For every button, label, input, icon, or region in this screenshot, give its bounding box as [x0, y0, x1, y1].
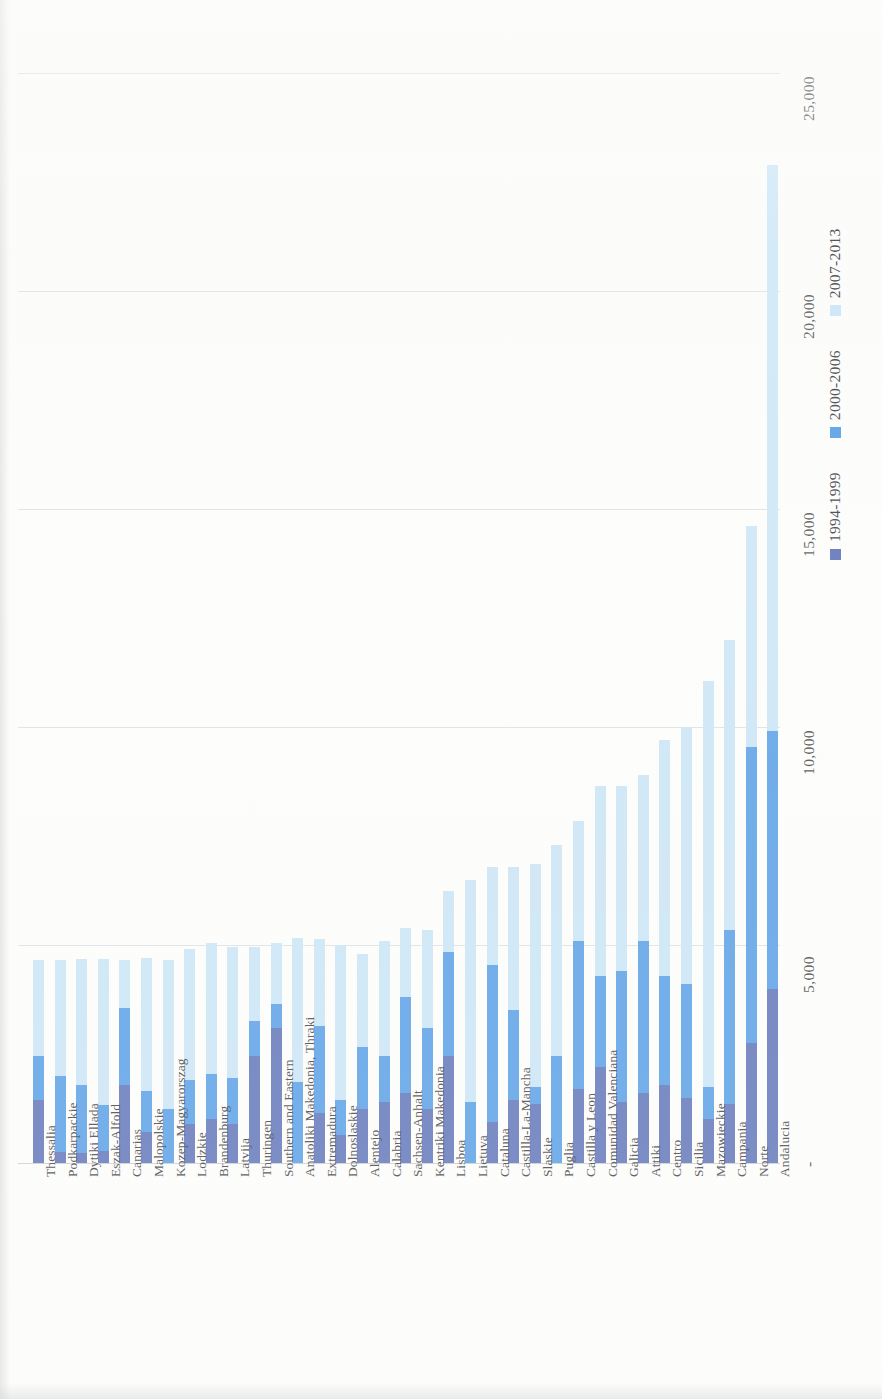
category-label-brandenburg: Brandenburg — [216, 1106, 232, 1177]
category-label-centro: Centro — [669, 1140, 685, 1177]
bar-segment-2007-2013 — [314, 939, 325, 1026]
category-label-canarias: Canarias — [129, 1129, 145, 1177]
bar-segment-2007-2013 — [98, 959, 109, 1105]
category-label-norte: Norte — [756, 1146, 772, 1177]
category-label-castilla-y-leon: Castilla y Leon — [583, 1093, 599, 1177]
category-label-lisboa: Lisboa — [453, 1140, 469, 1177]
bar-segment-2000-2006 — [119, 1008, 130, 1084]
bar-puglia[interactable] — [551, 845, 562, 1163]
bar-segment-2000-2006 — [443, 952, 454, 1057]
category-label-attiki: Attiki — [648, 1145, 664, 1177]
bar-segment-2007-2013 — [400, 928, 411, 998]
bar-segment-2007-2013 — [55, 960, 66, 1076]
bar-segment-2007-2013 — [119, 960, 130, 1008]
legend-swatch-icon-2007-2013 — [830, 305, 841, 316]
bar-segment-2000-2006 — [487, 965, 498, 1122]
category-label-thessalia: Thessalia — [43, 1125, 59, 1177]
category-label-mazowieckie: Mazowieckie — [713, 1103, 729, 1177]
category-label-slaskie: Slaskie — [540, 1137, 556, 1177]
bar-segment-2000-2006 — [703, 1087, 714, 1120]
legend-label-1994-1999: 1994-1999 — [826, 472, 844, 542]
bar-segment-2007-2013 — [163, 960, 174, 1108]
bar-segment-2007-2013 — [703, 681, 714, 1086]
bar-segment-2007-2013 — [724, 640, 735, 930]
bar-segment-2000-2006 — [595, 976, 606, 1068]
category-label-comunidad-valenciana: Comunidad Valenciana — [605, 1050, 621, 1177]
category-label-cataluna: Cataluna — [497, 1128, 513, 1177]
bars-group — [0, 0, 882, 1399]
category-label-kozep-magyarorszag: Kozep-Magyarorszag — [173, 1058, 189, 1177]
bar-centro[interactable] — [659, 740, 670, 1163]
bar-segment-2007-2013 — [681, 727, 692, 984]
legend-swatch-icon-1994-1999 — [830, 549, 841, 560]
bar-segment-2000-2006 — [249, 1021, 260, 1056]
bar-segment-2007-2013 — [76, 959, 87, 1085]
category-label-andalucia: Andalucia — [777, 1121, 793, 1177]
bar-attiki[interactable] — [638, 775, 649, 1163]
category-label-eszak-alfold: Eszak-Alfold — [108, 1104, 124, 1177]
bar-segment-2000-2006 — [659, 976, 670, 1085]
legend-item-1994-1999[interactable]: 1994-1999 — [826, 472, 844, 560]
bar-sicilia[interactable] — [681, 727, 692, 1163]
category-label-podkarpackie: Podkarpackie — [65, 1102, 81, 1177]
chart-legend: 1994-1999 2000-2006 2007-2013 — [826, 228, 844, 560]
category-label-anatoliki-makedonia-thraki: Anatoliki Makedonia, Thraki — [302, 1017, 318, 1177]
bar-segment-2007-2013 — [487, 867, 498, 965]
category-label-calabria: Calabria — [389, 1130, 405, 1177]
category-label-alentejo: Alentejo — [367, 1130, 383, 1177]
bar-segment-2007-2013 — [379, 941, 390, 1057]
bar-segment-2000-2006 — [400, 997, 411, 1093]
bar-mazowieckie[interactable] — [703, 681, 714, 1163]
bar-segment-2007-2013 — [595, 786, 606, 976]
category-label-puglia: Puglia — [561, 1142, 577, 1177]
category-label-campania: Campania — [734, 1122, 750, 1178]
category-label-galicia: Galicia — [626, 1137, 642, 1177]
chart-plot-area: -5,00010,00015,00020,00025,000 Thessalia… — [0, 0, 882, 1399]
legend-item-2007-2013[interactable]: 2007-2013 — [826, 228, 844, 316]
bar-segment-2007-2013 — [551, 845, 562, 1056]
bar-segment-2007-2013 — [746, 526, 757, 746]
bar-lietuva[interactable] — [465, 880, 476, 1163]
bar-segment-2007-2013 — [206, 943, 217, 1074]
bar-norte[interactable] — [746, 526, 757, 1163]
bar-segment-2007-2013 — [659, 740, 670, 975]
bar-segment-2000-2006 — [33, 1056, 44, 1100]
category-label-castilla-la-mancha: Castilla-La-Mancha — [518, 1067, 534, 1177]
bar-segment-2007-2013 — [767, 165, 778, 732]
category-label-lodzkie: Lodzkie — [194, 1132, 210, 1177]
bar-segment-2007-2013 — [443, 891, 454, 952]
bar-cataluna[interactable] — [487, 867, 498, 1163]
bar-segment-2007-2013 — [249, 947, 260, 1021]
legend-label-2007-2013: 2007-2013 — [826, 228, 844, 298]
legend-label-2000-2006: 2000-2006 — [826, 350, 844, 420]
bar-segment-2007-2013 — [465, 880, 476, 1102]
legend-swatch-icon-2000-2006 — [830, 427, 841, 438]
bar-segment-2007-2013 — [141, 958, 152, 1091]
bar-segment-2007-2013 — [530, 864, 541, 1086]
bar-segment-2000-2006 — [724, 930, 735, 1104]
legend-item-2000-2006[interactable]: 2000-2006 — [826, 350, 844, 438]
bar-segment-2000-2006 — [573, 941, 584, 1089]
category-label-malopolskie: Malopolskie — [151, 1108, 167, 1177]
bar-segment-2000-2006 — [767, 731, 778, 988]
bar-segment-2007-2013 — [422, 930, 433, 1028]
bar-segment-2007-2013 — [271, 943, 282, 1004]
bar-segment-2007-2013 — [508, 867, 519, 1011]
category-label-kentriki-makedonia: Kentriki Makedonia — [432, 1066, 448, 1177]
bar-segment-2000-2006 — [379, 1056, 390, 1102]
bar-segment-2000-2006 — [357, 1047, 368, 1108]
bar-campania[interactable] — [724, 640, 735, 1163]
bar-segment-2000-2006 — [638, 941, 649, 1094]
bar-segment-2007-2013 — [335, 945, 346, 1100]
bar-segment-2007-2013 — [227, 947, 238, 1078]
bar-segment-2000-2006 — [681, 984, 692, 1097]
category-label-southern-and-eastern: Southern and Eastern — [281, 1059, 297, 1177]
category-label-sicilia: Sicilia — [691, 1142, 707, 1177]
category-label-extremadura: Extremadura — [324, 1106, 340, 1177]
bar-segment-2007-2013 — [573, 821, 584, 941]
bar-andalucia[interactable] — [767, 165, 778, 1163]
category-label-lietuva: Lietuva — [475, 1135, 491, 1177]
category-label-sachsen-anhalt: Sachsen-Anhalt — [410, 1090, 426, 1177]
category-label-dolnoslaskie: Dolnoslaskie — [345, 1105, 361, 1177]
bar-segment-2000-2006 — [746, 747, 757, 1043]
